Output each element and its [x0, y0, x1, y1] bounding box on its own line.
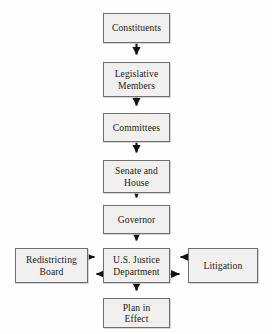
node-legislative-members[interactable]: Legislative Members — [103, 62, 170, 97]
node-litigation[interactable]: Litigation — [188, 248, 258, 283]
node-governor[interactable]: Governor — [103, 205, 170, 234]
node-plan-in-effect[interactable]: Plan in Effect — [103, 298, 170, 328]
node-redistricting-board-label-line2: Board — [40, 266, 64, 277]
node-constituents-label: Constituents — [106, 22, 167, 34]
node-committees-label: Committees — [106, 122, 167, 134]
node-us-justice-department[interactable]: U.S. Justice Department — [103, 248, 170, 283]
node-constituents[interactable]: Constituents — [103, 13, 170, 43]
node-legislative-members-label-line2: Members — [118, 80, 155, 91]
flowchart-diagram: Constituents Legislative Members Committ… — [0, 0, 272, 334]
node-redistricting-board-label-line1: Redistricting — [26, 254, 77, 265]
node-senate-and-house-label-line2: House — [124, 177, 149, 188]
node-plan-in-effect-label-line2: Effect — [125, 313, 149, 324]
node-litigation-label: Litigation — [191, 260, 255, 272]
node-redistricting-board[interactable]: Redistricting Board — [15, 248, 88, 283]
node-us-justice-department-label-line2: Department — [113, 266, 159, 277]
node-legislative-members-label-line1: Legislative — [115, 68, 159, 79]
node-us-justice-department-label-line1: U.S. Justice — [113, 254, 160, 265]
node-governor-label: Governor — [106, 214, 167, 226]
node-senate-and-house-label-line1: Senate and — [115, 165, 158, 176]
node-committees[interactable]: Committees — [103, 113, 170, 142]
node-plan-in-effect-label-line1: Plan in — [123, 302, 151, 313]
node-senate-and-house[interactable]: Senate and House — [103, 160, 170, 193]
